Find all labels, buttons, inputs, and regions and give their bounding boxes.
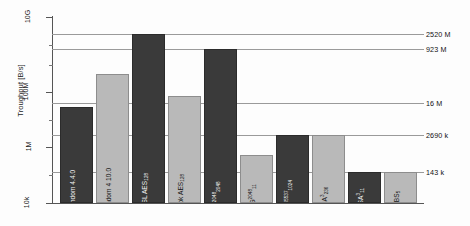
annotation-label-2690k: 2690 k [426, 131, 448, 140]
y-tick-label-100m: 100M [22, 83, 29, 101]
y-tick-label-10g: 10G [24, 10, 31, 23]
plot-area: /dev/urandom 4.4.0 /dev/urandom 4 10.0 O… [53, 16, 424, 203]
y-tick-10g [46, 17, 53, 18]
bar-textbook-aes128[interactable]: Textbook AES128 [168, 96, 201, 203]
bar-label-openssl-aes128: OpenSSL AES128 [142, 173, 149, 203]
bar-bbs5[interactable]: BBS5 [384, 172, 417, 203]
annotation-label-143k: 143 k [426, 168, 444, 177]
annotation-label-2520m: 2520 M [426, 30, 451, 39]
bar-chart: Troughput [B/s] 10G 100M 1M 10k 2520 M 9… [0, 0, 470, 226]
x-axis-line [52, 203, 424, 204]
y-tick-100m [46, 92, 53, 93]
y-tick-1m [46, 147, 53, 148]
bar-label-dev-urandom-440: /dev/urandom 4.4.0 [70, 170, 77, 203]
annotation-label-923m: 923 M [426, 45, 446, 54]
bar-label-rsa-3-11: RSA311 [358, 188, 365, 203]
bar-dev-urandom-440[interactable]: /dev/urandom 4.4.0 [60, 107, 93, 203]
bar-label-dev-urandom-4100: /dev/urandom 4 10.0 [106, 168, 113, 203]
bar-rsa-3-11[interactable]: RSA311 [348, 172, 381, 203]
bar-dev-urandom-4100[interactable]: /dev/urandom 4 10.0 [96, 74, 129, 203]
y-tick-label-10k: 10k [23, 197, 30, 208]
annotation-label-16m: 16 M [426, 99, 442, 108]
bar-label-rsa-65537-1024: RSA655371024 [286, 180, 293, 203]
bar-openssl-aes128[interactable]: OpenSSL AES128 [132, 34, 165, 203]
bar-label-lcg-2048-2048: LCG20482048 [214, 182, 221, 203]
y-tick-label-1m: 1M [25, 142, 32, 152]
y-tick-10k [46, 203, 53, 204]
bar-label-bbs5: BBS5 [394, 191, 401, 203]
bar-rsa-3-236[interactable]: RSA3236 [312, 135, 345, 203]
bar-lcg-2048-2048[interactable]: LCG20482048 [204, 49, 237, 203]
bar-label-lcg-2048-11: LCG204811 [250, 184, 257, 203]
bar-rsa-65537-1024[interactable]: RSA655371024 [276, 135, 309, 203]
bar-label-rsa-3-236: RSA3236 [322, 187, 329, 203]
bar-lcg-2048-11[interactable]: LCG204811 [240, 155, 273, 203]
bar-label-textbook-aes128: Textbook AES128 [178, 174, 185, 203]
